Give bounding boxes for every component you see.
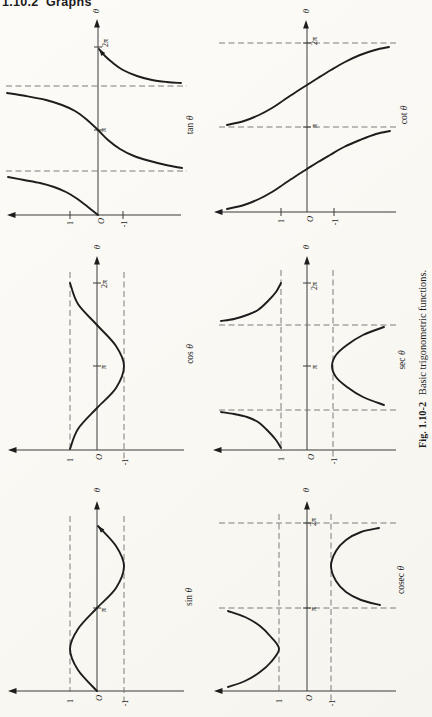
plot-label: 2π bbox=[310, 282, 319, 290]
figure-caption-text: Basic trigonometric functions. bbox=[417, 270, 428, 395]
plot-label: 1 bbox=[66, 221, 75, 225]
plot-label: tan θ bbox=[185, 115, 195, 134]
plot-label: π bbox=[99, 608, 108, 612]
axis-arrowhead bbox=[7, 212, 16, 218]
axis-arrowhead bbox=[304, 256, 310, 265]
plot-label: θ bbox=[301, 244, 311, 249]
plot-label: -1 bbox=[330, 458, 339, 465]
plot-label: cot θ bbox=[399, 105, 409, 124]
figure-canvas: θ2ππO1-1tan θθ2ππO1-1cot θθ2ππO1-1cos θθ… bbox=[0, 0, 432, 717]
cot-theta-plot: θ2ππO1-1cot θ bbox=[214, 8, 409, 225]
plot-label: θ bbox=[301, 487, 311, 492]
plot-label: sin θ bbox=[184, 588, 194, 606]
axis-arrowhead bbox=[304, 501, 310, 510]
axis-arrowhead bbox=[94, 19, 100, 28]
plot-label: π bbox=[99, 365, 108, 369]
plot-label: θ bbox=[92, 244, 102, 249]
axis-arrowhead bbox=[94, 501, 100, 510]
cot-curve bbox=[227, 47, 389, 125]
plot-label: -1 bbox=[121, 700, 130, 707]
sec-curve bbox=[221, 283, 281, 321]
axis-arrowhead bbox=[213, 447, 222, 453]
plot-label: 1 bbox=[277, 219, 286, 223]
plot-label: π bbox=[99, 128, 108, 132]
plot-label: O bbox=[305, 216, 315, 222]
plot-label: -1 bbox=[120, 221, 129, 228]
plot-label: π bbox=[310, 124, 319, 128]
cosec-curve bbox=[331, 528, 380, 605]
axis-arrowhead bbox=[303, 20, 309, 29]
sec-theta-plot: θ2ππO1-1sec θ bbox=[213, 244, 407, 464]
figure-caption-number: Fig. 1.10-2 bbox=[417, 402, 428, 448]
plot-label: θ bbox=[92, 487, 102, 492]
plot-label: 1 bbox=[66, 458, 75, 462]
axis-arrowhead bbox=[214, 209, 223, 215]
axis-arrowhead bbox=[8, 447, 17, 453]
plot-label: 2π bbox=[310, 37, 319, 45]
plot-label: O bbox=[94, 454, 104, 460]
plot-label: 2π bbox=[101, 39, 110, 47]
axis-arrowhead bbox=[214, 688, 223, 694]
plot-label: sec θ bbox=[397, 350, 407, 370]
sec-curve bbox=[332, 327, 384, 405]
tan-curve bbox=[99, 49, 181, 83]
plot-label: 1 bbox=[66, 699, 75, 703]
plot-label: cos θ bbox=[185, 344, 195, 364]
cos-theta-plot: θ2ππO1-1cos θ bbox=[8, 244, 195, 465]
plot-label: 2π bbox=[309, 518, 318, 526]
plot-label: O bbox=[304, 695, 314, 701]
sec-curve bbox=[221, 412, 281, 448]
textbook-page: 1.10.2 Graphs θ2ππO1-1tan θθ2ππO1-1cot θ… bbox=[0, 0, 432, 717]
plot-label: cosec θ bbox=[396, 566, 406, 594]
tan-theta-plot: θ2ππO1-1tan θ bbox=[6, 8, 195, 227]
plot-label: θ bbox=[301, 8, 311, 13]
plot-label: π bbox=[309, 607, 318, 611]
axis-arrowhead bbox=[8, 688, 17, 694]
plot-label: -1 bbox=[331, 219, 340, 226]
plot-label: O bbox=[94, 695, 104, 701]
plot-label: 2π bbox=[100, 280, 109, 288]
tan-curve bbox=[8, 177, 98, 215]
plot-label: π bbox=[310, 365, 319, 369]
plot-label: -1 bbox=[328, 700, 337, 707]
axis-arrowhead bbox=[94, 256, 100, 265]
plot-label: 1 bbox=[277, 457, 286, 461]
plot-label: -1 bbox=[121, 459, 130, 466]
plot-label: O bbox=[306, 454, 316, 460]
plot-label: 1 bbox=[275, 699, 284, 703]
cosec-theta-plot: θ2ππO1-1cosec θ bbox=[214, 487, 406, 706]
sin-theta-plot: θπO1-1sin θ bbox=[8, 487, 194, 706]
plot-label: θ bbox=[91, 8, 101, 13]
cot-curve bbox=[227, 131, 390, 209]
plot-label: O bbox=[96, 218, 106, 224]
cosec-curve bbox=[228, 611, 279, 687]
figure-caption: Fig. 1.10-2Basic trigonometric functions… bbox=[417, 248, 431, 470]
